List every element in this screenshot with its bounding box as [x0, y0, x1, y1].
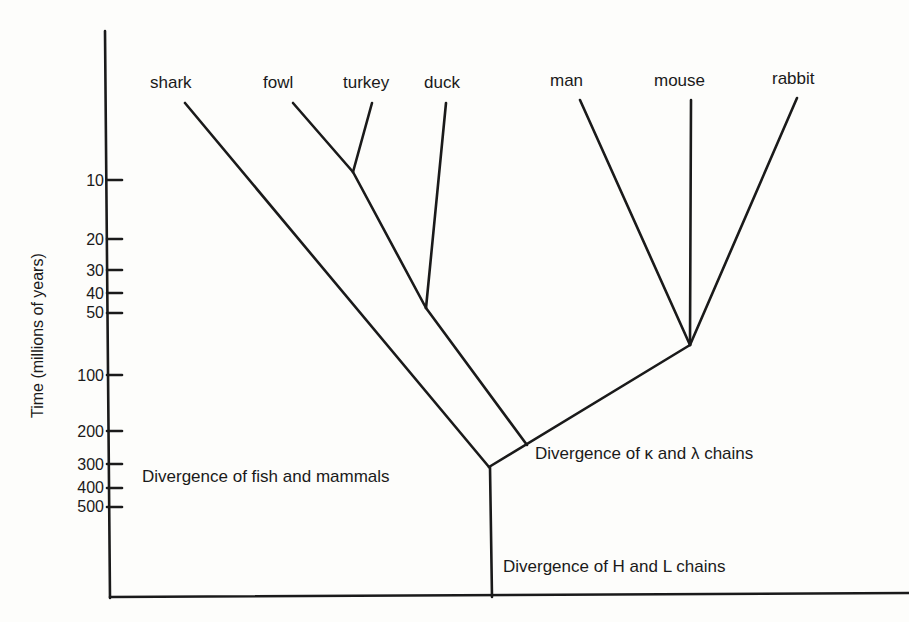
branch-shark	[185, 103, 489, 467]
branch-rabbit	[690, 98, 797, 345]
tick-label: 200	[64, 424, 104, 440]
tick-label: 30	[64, 263, 104, 279]
annotation-kappa-lambda: Divergence of κ and λ chains	[535, 445, 753, 462]
tick-label: 100	[64, 368, 104, 384]
taxon-fowl: fowl	[263, 74, 293, 91]
tick-label: 400	[64, 480, 104, 496]
tick-label: 500	[64, 499, 104, 515]
tick-label: 10	[64, 173, 104, 189]
taxon-duck: duck	[424, 74, 460, 91]
branch-turkey	[353, 103, 372, 172]
tick-label: 50	[64, 305, 104, 321]
branch-mouse	[690, 100, 691, 345]
taxon-rabbit: rabbit	[772, 70, 815, 87]
taxon-shark: shark	[150, 74, 192, 91]
branch-fowlturkey	[353, 172, 426, 308]
x-axis	[110, 593, 909, 597]
branch-root	[490, 467, 492, 597]
annotation-fish-mammals: Divergence of fish and mammals	[142, 468, 390, 485]
y-axis	[105, 31, 110, 598]
annotation-h-l: Divergence of H and L chains	[503, 558, 725, 575]
taxon-turkey: turkey	[343, 74, 389, 91]
branch-fowl	[293, 103, 353, 172]
taxon-man: man	[550, 72, 583, 89]
tick-label: 20	[64, 232, 104, 248]
tick-label: 40	[64, 286, 104, 302]
tick-label: 300	[64, 457, 104, 473]
branch-man	[580, 100, 690, 345]
y-axis-label: Time (millions of years)	[30, 253, 46, 418]
tree-diagram	[0, 0, 909, 622]
branch-birds	[426, 308, 527, 445]
taxon-mouse: mouse	[654, 72, 705, 89]
branch-duck	[426, 103, 446, 308]
